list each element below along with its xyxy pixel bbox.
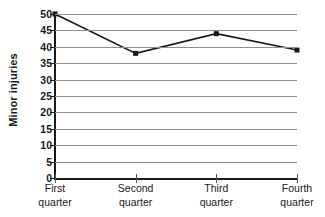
y-axis-title-label: Minor injuries [7, 53, 19, 127]
y-axis-title: Minor injuries [0, 0, 26, 180]
data-point-marker [133, 51, 138, 56]
line-chart: Minor injuries 05101520253035404550 Firs… [0, 0, 325, 217]
y-tick-mark [50, 30, 54, 31]
y-tick-mark [50, 47, 54, 48]
x-tick-label-line: Third [200, 181, 233, 195]
y-tick-mark [50, 178, 54, 179]
x-tick-label-line: quarter [280, 195, 313, 209]
x-tick-label: Secondquarter [118, 181, 154, 209]
gridline [55, 96, 297, 97]
x-tick-label: Fourthquarter [280, 181, 313, 209]
gridline [55, 47, 297, 48]
y-tick-mark [50, 14, 54, 15]
data-point-marker [295, 48, 300, 53]
gridline [55, 162, 297, 163]
data-point-marker [214, 31, 219, 36]
y-tick-mark [50, 145, 54, 146]
y-tick-label: 15 [26, 124, 52, 135]
y-tick-mark [50, 96, 54, 97]
x-tick-label: Thirdquarter [200, 181, 233, 209]
y-tick-mark [50, 80, 54, 81]
gridline [55, 63, 297, 64]
gridline [55, 145, 297, 146]
y-tick-mark [50, 129, 54, 130]
gridline [55, 14, 297, 15]
gridline [55, 129, 297, 130]
y-tick-label: 30 [26, 74, 52, 85]
y-tick-label: 35 [26, 58, 52, 69]
y-tick-label: 40 [26, 42, 52, 53]
x-tick-label: Firstquarter [38, 181, 71, 209]
y-tick-label: 20 [26, 107, 52, 118]
x-tick-label-line: First [38, 181, 71, 195]
x-tick-label-line: quarter [38, 195, 71, 209]
gridline [55, 30, 297, 31]
y-tick-label: 45 [26, 25, 52, 36]
plot-area [55, 14, 297, 178]
x-tick-label-line: quarter [118, 195, 154, 209]
y-tick-label: 50 [26, 9, 52, 20]
x-tick-label-line: Fourth [280, 181, 313, 195]
y-tick-mark [50, 162, 54, 163]
x-axis-tick-labels: FirstquarterSecondquarterThirdquarterFou… [0, 181, 325, 217]
gridline [55, 112, 297, 113]
y-tick-mark [50, 112, 54, 113]
gridline [55, 80, 297, 81]
x-tick-label-line: Second [118, 181, 154, 195]
y-tick-label: 10 [26, 140, 52, 151]
x-tick-label-line: quarter [200, 195, 233, 209]
y-tick-label: 5 [26, 156, 52, 167]
x-axis-baseline [55, 178, 297, 180]
y-tick-mark [50, 63, 54, 64]
y-tick-label: 25 [26, 91, 52, 102]
